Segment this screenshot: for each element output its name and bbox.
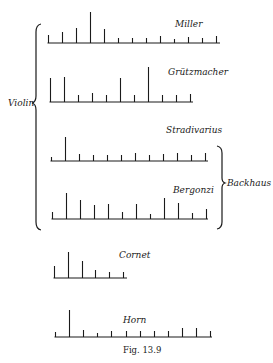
spectrum-label: Miller bbox=[174, 19, 203, 29]
spectrum-gr-tzmacher: Grützmacher bbox=[50, 67, 229, 102]
spectrum-horn: Horn bbox=[55, 310, 213, 337]
spectrum-label: Horn bbox=[122, 315, 147, 325]
spectrum-label: Grützmacher bbox=[168, 67, 229, 77]
spectrum-cornet: Cornet bbox=[54, 250, 151, 278]
backhaus-label: Backhaus bbox=[226, 178, 271, 188]
spectrum-bergonzi: Bergonzi bbox=[52, 185, 214, 219]
violin-label: Violin bbox=[8, 98, 34, 108]
violin-brace bbox=[32, 24, 41, 230]
spectrum-stradivarius: Stradivarius bbox=[51, 125, 223, 161]
spectrum-label: Cornet bbox=[119, 250, 151, 260]
spectrum-miller: Miller bbox=[48, 12, 221, 43]
backhaus-brace bbox=[217, 146, 225, 229]
spectrum-label: Bergonzi bbox=[172, 185, 214, 195]
harmonic-spectra-figure: MillerGrützmacherStradivariusBergonziCor… bbox=[0, 0, 273, 363]
spectrum-label: Stradivarius bbox=[166, 125, 223, 135]
figure-caption: Fig. 13.9 bbox=[123, 345, 161, 355]
spectra-group: MillerGrützmacherStradivariusBergonziCor… bbox=[48, 12, 229, 337]
